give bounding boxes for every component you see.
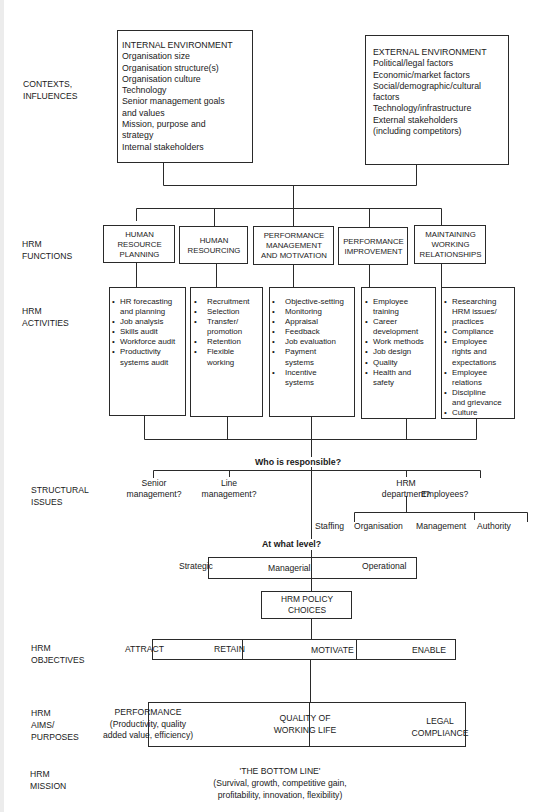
- activity-item: Flexible working: [193, 347, 250, 367]
- function-performance-improvement: PERFORMANCE IMPROVEMENT: [339, 228, 408, 265]
- hrm-sub-staffing: Staffing: [315, 521, 344, 532]
- external-environment: EXTERNAL ENVIRONMENT Political/legal fac…: [373, 47, 487, 137]
- internal-item: Organisation culture: [122, 74, 233, 85]
- function-human-resourcing: HUMAN RESOURCING: [180, 227, 248, 264]
- internal-environment: INTERNAL ENVIRONMENT Organisation size O…: [122, 40, 233, 153]
- internal-item: Mission, purpose and: [122, 119, 233, 130]
- level-operational: Operational: [362, 561, 406, 572]
- option-senior-management: Senior management?: [116, 478, 192, 500]
- activity-item: Job evaluation: [271, 337, 344, 347]
- row-label-mission: HRM MISSION: [30, 768, 66, 792]
- aim-performance: PERFORMANCE (Productivity, quality added…: [88, 707, 208, 742]
- activity-item: Payment systems: [271, 347, 344, 367]
- activity-item: Employee rights and expectations: [444, 337, 502, 367]
- internal-item: Organisation size: [122, 51, 233, 62]
- row-label-contexts: CONTEXTS, INFLUENCES: [23, 78, 77, 102]
- activities-working-relationships: Researching HRM issues/ practices Compli…: [444, 297, 502, 418]
- level-strategic: Strategic: [179, 561, 213, 572]
- hrm-sub-authority: Authority: [477, 521, 511, 532]
- activities-hr-planning: HR forecasting and planning Job analysis…: [112, 297, 175, 368]
- activity-item: Workforce audit: [112, 337, 175, 347]
- row-label-aims: HRM AIMS/ PURPOSES: [31, 707, 79, 743]
- external-item: External stakeholders: [373, 115, 487, 126]
- activity-item: Work methods: [365, 337, 424, 347]
- activity-item: Career development: [365, 317, 424, 337]
- objective-motivate: MOTIVATE: [311, 645, 354, 656]
- activity-item: Employee relations: [444, 368, 502, 388]
- objective-attract: ATTRACT: [125, 644, 164, 655]
- activity-item: Selection: [193, 307, 250, 317]
- internal-item: Internal stakeholders: [122, 142, 233, 153]
- activity-item: Culture: [444, 408, 502, 418]
- activity-item: Employee training: [365, 297, 424, 317]
- internal-item: Senior management goals: [122, 96, 233, 107]
- internal-item: Technology: [122, 85, 233, 96]
- hrm-sub-management: Management: [416, 521, 466, 532]
- activity-item: Appraisal: [271, 317, 344, 327]
- internal-item: Organisation structure(s): [122, 63, 233, 74]
- level-managerial: Managerial: [268, 563, 311, 574]
- external-environment-title: EXTERNAL ENVIRONMENT: [373, 47, 487, 58]
- external-item: Political/legal factors: [373, 58, 487, 69]
- activity-item: HR forecasting and planning: [112, 297, 175, 317]
- activity-item: Productivity systems audit: [112, 347, 175, 367]
- activity-item: Recruitment: [193, 297, 250, 307]
- function-performance-management: PERFORMANCE MANAGEMENT AND MOTIVATION: [254, 227, 334, 265]
- objectives-bracket: [153, 640, 456, 660]
- external-item: factors: [373, 92, 487, 103]
- function-maintaining-relationships: MAINTAINING WORKING RELATIONSHIPS: [415, 226, 486, 264]
- functions-bus: [137, 209, 442, 227]
- activity-item: Monitoring: [271, 307, 344, 317]
- mission-title: 'THE BOTTOM LINE': [195, 766, 365, 777]
- context-connector: [164, 163, 417, 186]
- at-what-level-question: At what level?: [262, 539, 321, 550]
- activities-performance-improvement: Employee training Career development Wor…: [365, 297, 424, 388]
- row-label-activities: HRM ACTIVITIES: [22, 305, 69, 329]
- activities-performance-management: Objective-setting Monitoring Appraisal F…: [271, 297, 344, 388]
- activity-item: Researching HRM issues/ practices: [444, 297, 502, 327]
- responsibility-bus: [154, 471, 481, 479]
- hrm-sub-organisation: Organisation: [354, 521, 403, 532]
- activity-item: Compliance: [444, 327, 502, 337]
- activity-item: Feedback: [271, 327, 344, 337]
- activity-item: Retention: [193, 337, 250, 347]
- activities-bus: [145, 416, 477, 440]
- external-item: (including competitors): [373, 126, 487, 137]
- activity-item: Incentive systems: [271, 368, 344, 388]
- internal-environment-title: INTERNAL ENVIRONMENT: [122, 40, 233, 51]
- activities-resourcing: Recruitment Selection Transfer/ promotio…: [193, 297, 250, 368]
- activity-item: Job design: [365, 347, 424, 357]
- aim-legal-compliance: LEGAL COMPLIANCE: [400, 716, 480, 739]
- objective-enable: ENABLE: [412, 645, 446, 656]
- activity-item: Job analysis: [112, 317, 175, 327]
- option-employees: Employees?: [421, 489, 468, 500]
- activity-item: Health and safety: [365, 368, 424, 388]
- external-item: Economic/market factors: [373, 70, 487, 81]
- external-item: Social/demographic/cultural: [373, 81, 487, 92]
- internal-item: and values: [122, 108, 233, 119]
- internal-item: strategy: [122, 130, 233, 141]
- activity-item: Skills audit: [112, 327, 175, 337]
- row-label-structural: STRUCTURAL ISSUES: [31, 484, 89, 508]
- hrm-framework-diagram: CONTEXTS, INFLUENCES HRM FUNCTIONS HRM A…: [0, 0, 558, 812]
- option-line-management: Line management?: [188, 478, 270, 500]
- mission-detail: (Survival, growth, competitive gain, pro…: [190, 778, 370, 801]
- objective-retain: RETAIN: [214, 644, 245, 655]
- activity-item: Discipline and grievance: [444, 388, 502, 408]
- function-human-resource-planning: HUMAN RESOURCE PLANNING: [104, 226, 175, 263]
- external-item: Technology/infrastructure: [373, 103, 487, 114]
- who-is-responsible-question: Who is responsible?: [255, 457, 341, 468]
- row-label-functions: HRM FUNCTIONS: [22, 238, 72, 262]
- activity-item: Objective-setting: [271, 297, 344, 307]
- hrm-policy-choices: HRM POLICY CHOICES: [262, 594, 352, 616]
- row-label-objectives: HRM OBJECTIVES: [31, 642, 84, 666]
- activity-item: Quality: [365, 358, 424, 368]
- aim-quality-of-working-life: QUALITY OF WORKING LIFE: [245, 713, 365, 736]
- activity-item: Transfer/ promotion: [193, 317, 250, 337]
